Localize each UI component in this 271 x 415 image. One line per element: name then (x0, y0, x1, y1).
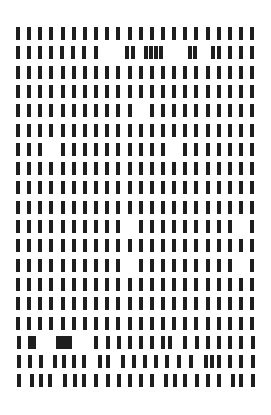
vertical-bar (116, 27, 120, 40)
vertical-bar (61, 201, 65, 214)
vertical-bar (189, 355, 193, 368)
vertical-bar (72, 201, 76, 214)
vertical-bar (250, 162, 254, 175)
vertical-bar (83, 201, 87, 214)
vertical-bar (194, 317, 198, 330)
vertical-bar (217, 162, 221, 175)
vertical-bar (161, 181, 165, 194)
vertical-bar (150, 239, 154, 252)
vertical-bar (250, 201, 254, 214)
vertical-bar (27, 162, 31, 175)
vertical-bar (94, 46, 98, 59)
vertical-bar (228, 143, 232, 156)
vertical-bar (228, 239, 232, 252)
vertical-bar (83, 124, 87, 137)
vertical-bar (239, 143, 243, 156)
vertical-bar (128, 143, 132, 156)
vertical-bar (217, 104, 221, 117)
vertical-bar (217, 124, 221, 137)
vertical-bar (228, 66, 232, 79)
vertical-bar (194, 239, 198, 252)
vertical-bar (27, 297, 31, 310)
vertical-bar (105, 27, 109, 40)
vertical-bar (195, 374, 199, 387)
vertical-bar (131, 46, 135, 59)
vertical-bar (250, 85, 254, 98)
vertical-bar (239, 27, 243, 40)
vertical-bar (183, 27, 187, 40)
vertical-bar (38, 220, 42, 233)
vertical-bar (49, 181, 53, 194)
vertical-bar (94, 239, 98, 252)
vertical-bar (27, 259, 31, 272)
vertical-bar (194, 278, 198, 291)
vertical-bar (105, 220, 109, 233)
vertical-bar (159, 46, 163, 59)
vertical-bar (206, 85, 210, 98)
vertical-bar (83, 259, 87, 272)
vertical-bar (128, 297, 132, 310)
vertical-bar (38, 143, 42, 156)
vertical-bar (239, 104, 243, 117)
vertical-bar (172, 124, 176, 137)
vertical-bar (228, 85, 232, 98)
vertical-bar (49, 124, 53, 137)
vertical-bar (150, 201, 154, 214)
vertical-bar (193, 46, 197, 59)
vertical-bar (161, 259, 165, 272)
vertical-bar (61, 104, 65, 117)
vertical-bar (161, 278, 165, 291)
vertical-bar (206, 259, 210, 272)
vertical-bar (49, 317, 53, 330)
vertical-bar (17, 374, 21, 387)
vertical-bar (94, 259, 98, 272)
vertical-bar (228, 317, 232, 330)
vertical-bar (128, 374, 132, 387)
vertical-bar (239, 317, 243, 330)
vertical-bar (61, 259, 65, 272)
vertical-bar (144, 46, 148, 59)
vertical-bar (206, 27, 210, 40)
vertical-bar (61, 85, 65, 98)
vertical-bar (150, 278, 154, 291)
vertical-bar (239, 46, 243, 59)
vertical-bar (94, 374, 98, 387)
vertical-bar (39, 355, 43, 368)
vertical-bar (105, 66, 109, 79)
vertical-bar (82, 355, 86, 368)
vertical-bar (94, 201, 98, 214)
vertical-bar (250, 278, 254, 291)
vertical-bar (83, 297, 87, 310)
vertical-bar (139, 27, 143, 40)
vertical-bar (217, 143, 221, 156)
vertical-bar (250, 104, 254, 117)
vertical-bar (150, 259, 154, 272)
vertical-bar (38, 297, 42, 310)
vertical-bar (139, 374, 143, 387)
vertical-bar (27, 317, 31, 330)
vertical-bar (149, 46, 153, 59)
vertical-bar (62, 355, 66, 368)
vertical-bar (228, 201, 232, 214)
vertical-bar (61, 66, 65, 79)
vertical-bar (38, 162, 42, 175)
vertical-bar (239, 336, 243, 349)
vertical-bar (239, 239, 243, 252)
vertical-bar (154, 46, 158, 59)
vertical-bar (217, 355, 221, 368)
vertical-bar (172, 297, 176, 310)
vertical-bar (125, 46, 129, 59)
vertical-bar (116, 259, 120, 272)
vertical-bar (94, 104, 98, 117)
vertical-bar (161, 162, 165, 175)
vertical-bar (150, 336, 154, 349)
vertical-bar (105, 124, 109, 137)
vertical-bar (150, 66, 154, 79)
vertical-bar (38, 181, 42, 194)
vertical-bar (194, 104, 198, 117)
vertical-bar (116, 66, 120, 79)
vertical-bar (83, 220, 87, 233)
vertical-bar (206, 201, 210, 214)
vertical-bar (251, 374, 255, 387)
vertical-bar (239, 66, 243, 79)
